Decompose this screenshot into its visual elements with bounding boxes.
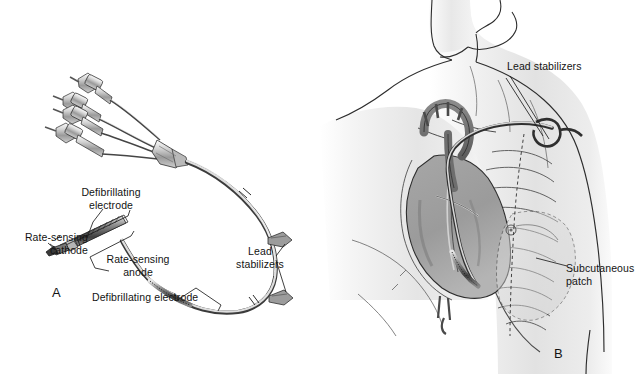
panel-marker-b: B (554, 346, 563, 361)
label-defibrillating-electrode-distal: Defibrillating electrode (92, 291, 242, 304)
label-rate-sensing-anode: Rate-sensing anode (90, 253, 186, 278)
label-subcutaneous-patch: Subcutaneous patch (566, 262, 635, 287)
label-defibrillating-electrode-proximal: Defibrillating electrode (63, 186, 159, 211)
label-lead-stabilizers-panel-a: Lead stabilizers (225, 245, 295, 270)
panel-marker-a: A (52, 285, 61, 300)
label-lead-stabilizers-panel-b: Lead stabilizers (507, 60, 627, 73)
label-rate-sensing-cathode: Rate-sensing cathode (0, 231, 88, 256)
